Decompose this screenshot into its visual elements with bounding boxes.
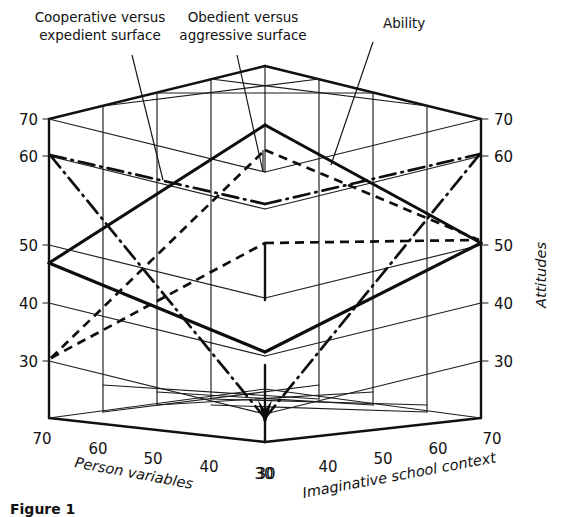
tick-label-left-40: 40 — [19, 295, 38, 313]
tick-label-isc-70: 70 — [482, 430, 501, 448]
tick-label-right-70: 70 — [494, 111, 513, 129]
tick-label-left-30: 30 — [19, 353, 38, 371]
axis-title-attitudes: Attitudes — [533, 242, 549, 309]
axis-title-person-variables: Person variables — [74, 454, 195, 492]
leader-line-obedient — [237, 55, 263, 172]
tick-label-right-30: 30 — [494, 353, 513, 371]
tick-label-isc-30: 30 — [256, 465, 275, 483]
tick-label-pv-60: 60 — [88, 440, 107, 458]
obedient-edge-front-to-right — [265, 240, 479, 243]
figure-caption: Figure 1 — [10, 501, 75, 517]
tick-label-isc-60: 60 — [428, 440, 447, 458]
annotation-labels: Cooperative versus expedient surface Obe… — [35, 9, 426, 43]
obedient-edge-left-to-back — [51, 150, 265, 358]
tick-label-isc-50: 50 — [373, 450, 392, 468]
label-cooperative-line2: expedient surface — [39, 27, 161, 43]
label-cooperative-line1: Cooperative versus — [35, 9, 166, 25]
tick-label-pv-70: 70 — [32, 430, 51, 448]
tick-label-pv-40: 40 — [199, 458, 218, 476]
tick-label-right-40: 40 — [494, 295, 513, 313]
tick-label-pv-50: 50 — [143, 450, 162, 468]
box-floor-edge-left-front — [49, 418, 265, 442]
tick-label-right-60: 60 — [494, 148, 513, 166]
three-d-surface-plot: Cooperative versus expedient surface Obe… — [0, 0, 561, 517]
leader-line-cooperative — [132, 55, 163, 180]
annotation-leader-lines — [132, 42, 373, 180]
tick-label-left-50: 50 — [19, 237, 38, 255]
axis-right-vertical-ticks: 70 60 50 40 30 — [494, 111, 513, 371]
box-floor-edge-front-right — [265, 418, 481, 442]
tick-label-isc-40: 40 — [318, 458, 337, 476]
tick-label-left-70: 70 — [19, 111, 38, 129]
label-obedient-line2: aggressive surface — [179, 27, 306, 43]
tick-label-left-60: 60 — [19, 148, 38, 166]
tick-label-right-50: 50 — [494, 237, 513, 255]
surface-obedient-aggressive — [51, 150, 479, 358]
figure-root: Cooperative versus expedient surface Obe… — [0, 0, 561, 517]
axis-left-vertical-ticks: 70 60 50 40 30 — [19, 111, 38, 371]
obedient-edge-left-to-front — [51, 243, 265, 358]
label-obedient-line1: Obedient versus — [188, 9, 299, 25]
label-ability: Ability — [383, 15, 425, 31]
